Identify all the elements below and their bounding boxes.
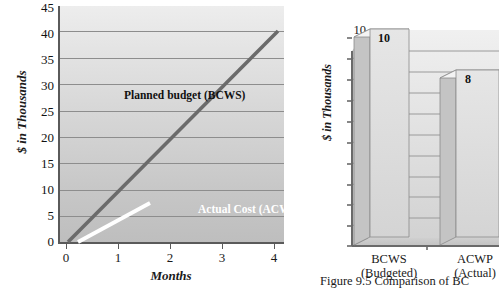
bar-bcws <box>354 29 409 245</box>
x-tick-label: 1 <box>106 250 130 265</box>
y-tick-label: 20 <box>24 131 54 144</box>
left-chart-x-axis-title: Months <box>58 268 284 284</box>
x-tick <box>66 244 67 249</box>
y-tick-label: 35 <box>24 53 54 66</box>
planned-vs-actual-line-chart: $ in Thousands 45 40 35 30 25 20 15 10 5… <box>0 0 290 290</box>
bar-acwp <box>440 70 499 245</box>
x-category-label-acwp: ACWP <box>430 252 499 266</box>
x-tick-label: 4 <box>262 250 286 265</box>
x-category-label-bcws: BCWS <box>344 252 434 266</box>
x-tick <box>222 244 223 249</box>
x-tick <box>274 244 275 249</box>
y-tick-label: 5 <box>24 209 54 222</box>
acwp-annotation-label: Actual Cost (ACWP) <box>198 203 301 215</box>
bar-acwp-value-label: 8 <box>465 72 471 87</box>
x-tick-label: 0 <box>54 250 78 265</box>
y-tick-label: 25 <box>24 105 54 118</box>
bcws-annotation-label: Planned budget (BCWS) <box>124 89 245 101</box>
bar-bcws-value-label: 10 <box>378 31 390 46</box>
y-tick-label: 10 <box>24 183 54 196</box>
y-tick-label: 40 <box>24 27 54 40</box>
x-tick <box>170 244 171 249</box>
chart-floor <box>352 238 499 246</box>
bar-bcws-left-face <box>354 29 370 245</box>
right-chart-3d-plot-svg <box>290 0 499 250</box>
left-chart-y-axis-labels: 45 40 35 30 25 20 15 10 5 0 <box>18 0 54 250</box>
y-tick-label: 0 <box>24 235 54 248</box>
bar-acwp-left-face <box>440 70 456 245</box>
bar-bcws-front-face <box>370 29 409 237</box>
x-tick-label: 3 <box>210 250 234 265</box>
left-chart-x-axis-labels: 0 1 2 3 4 <box>58 250 284 268</box>
y-tick-label: 45 <box>24 1 54 14</box>
bcws-acwp-bar-chart: $ in Thousands 10 9 8 7 6 5 4 3 2 1 0 <box>290 0 499 290</box>
y-tick-label: 30 <box>24 79 54 92</box>
bar-acwp-front-face <box>456 70 499 237</box>
x-tick <box>118 244 119 249</box>
figure-caption: Figure 9.5 Comparison of BC <box>290 274 499 289</box>
x-tick-label: 2 <box>158 250 182 265</box>
left-chart-plot-area: Planned budget (BCWS) Actual Cost (ACWP) <box>58 6 284 244</box>
y-tick-label: 15 <box>24 157 54 170</box>
